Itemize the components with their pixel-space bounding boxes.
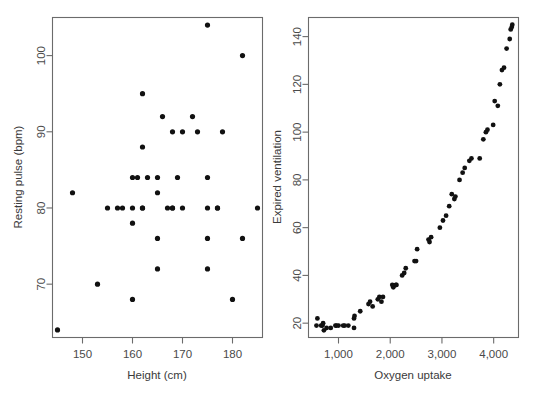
data-point [414, 259, 419, 264]
data-point [427, 240, 432, 245]
data-point [155, 266, 160, 271]
data-point [230, 297, 235, 302]
data-point [140, 91, 145, 96]
x-tick-label: 4,000 [479, 348, 508, 360]
data-point [205, 266, 210, 271]
data-point [155, 236, 160, 241]
data-point [491, 123, 496, 128]
y-tick-label: 120 [291, 75, 303, 94]
data-point [130, 221, 135, 226]
data-point [215, 205, 220, 210]
y-axis-title-right: Expired ventilation [271, 130, 283, 224]
y-axis-ticks-right: 20406080100120140 [291, 27, 309, 330]
data-point [180, 129, 185, 134]
data-point [55, 327, 60, 332]
data-point [352, 314, 357, 319]
data-point [507, 37, 512, 42]
y-tick-label: 60 [291, 221, 303, 234]
data-point [504, 46, 509, 51]
figure-container: 150160170180 708090100 Height (cm) Resti… [0, 0, 534, 395]
data-point [403, 266, 408, 271]
y-tick-label: 70 [35, 278, 47, 291]
data-point [510, 22, 515, 27]
data-point [255, 205, 260, 210]
data-point [321, 321, 326, 326]
data-point [502, 65, 507, 70]
x-axis-ticks-left: 150160170180 [73, 338, 242, 360]
data-point [460, 170, 465, 175]
data-point [190, 114, 195, 119]
data-point [95, 282, 100, 287]
scatter-plot-left: 150160170180 708090100 Height (cm) Resti… [0, 0, 267, 395]
data-point [130, 175, 135, 180]
data-point [444, 213, 449, 218]
y-axis-title-left: Resting pulse (bpm) [12, 125, 24, 228]
data-point [105, 205, 110, 210]
plot-frame-right [309, 18, 519, 338]
data-point [130, 205, 135, 210]
data-point [481, 137, 486, 142]
data-point [402, 271, 407, 276]
data-point [394, 283, 399, 288]
y-tick-label: 80 [291, 173, 303, 186]
y-tick-label: 20 [291, 317, 303, 330]
data-point [115, 205, 120, 210]
data-point [140, 205, 145, 210]
x-tick-label: 1,000 [324, 348, 353, 360]
data-point [315, 316, 320, 321]
x-tick-label: 170 [173, 348, 192, 360]
data-point [485, 127, 490, 132]
x-tick-label: 2,000 [376, 348, 405, 360]
x-axis-title-right: Oxygen uptake [374, 369, 451, 381]
x-axis-title-left: Height (cm) [127, 369, 187, 381]
y-tick-label: 80 [35, 202, 47, 215]
y-tick-label: 100 [291, 123, 303, 142]
left-plot-points-layer [55, 23, 260, 333]
data-point [495, 103, 500, 108]
data-point [497, 82, 502, 87]
data-point [160, 114, 165, 119]
data-point [140, 144, 145, 149]
data-point [240, 53, 245, 58]
data-point [429, 235, 434, 240]
data-point [165, 205, 170, 210]
data-point [240, 236, 245, 241]
y-tick-label: 90 [35, 125, 47, 138]
data-point [314, 323, 319, 328]
data-point [447, 204, 452, 209]
data-point [457, 177, 462, 182]
data-point [170, 205, 175, 210]
data-point [135, 175, 140, 180]
data-point [381, 295, 386, 300]
data-point [175, 175, 180, 180]
right-plot-points-layer [314, 22, 515, 332]
data-point [155, 175, 160, 180]
data-point [120, 205, 125, 210]
data-point [324, 326, 329, 331]
data-point [370, 304, 375, 309]
data-point [195, 129, 200, 134]
x-tick-label: 3,000 [428, 348, 457, 360]
data-point [170, 129, 175, 134]
data-point [346, 323, 351, 328]
data-point [462, 166, 467, 171]
data-point [368, 299, 373, 304]
data-point [492, 99, 497, 104]
data-point [415, 247, 420, 252]
x-tick-label: 150 [73, 348, 92, 360]
data-point [205, 23, 210, 28]
data-point [441, 218, 446, 223]
data-point [336, 323, 341, 328]
y-tick-label: 100 [35, 46, 47, 65]
data-point [453, 194, 458, 199]
x-axis-ticks-right: 1,0002,0003,0004,000 [324, 338, 508, 360]
data-point [220, 129, 225, 134]
panel-resting-pulse-vs-height: 150160170180 708090100 Height (cm) Resti… [0, 0, 267, 395]
data-point [205, 205, 210, 210]
data-point [358, 309, 363, 314]
data-point [477, 156, 482, 161]
data-point [352, 326, 357, 331]
data-point [469, 156, 474, 161]
data-point [437, 225, 442, 230]
data-point [205, 175, 210, 180]
